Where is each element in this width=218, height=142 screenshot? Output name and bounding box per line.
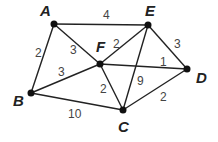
edge-a-e bbox=[54, 24, 148, 25]
edge-weight-b-c: 10 bbox=[68, 107, 82, 121]
edge-weight-f-c: 2 bbox=[100, 82, 107, 96]
node-label-e: E bbox=[145, 2, 156, 19]
node-label-f: F bbox=[96, 38, 106, 55]
node-a-dot bbox=[51, 21, 58, 28]
edge-weight-a-b: 2 bbox=[35, 46, 42, 60]
edge-weight-e-c: 9 bbox=[137, 74, 144, 88]
node-label-b: B bbox=[13, 92, 24, 109]
edge-weight-f-b: 3 bbox=[58, 65, 65, 79]
edge-weight-e-f: 2 bbox=[113, 37, 120, 51]
node-label-d: D bbox=[196, 69, 207, 86]
edge-weight-f-d: 1 bbox=[160, 55, 167, 69]
edge-f-d bbox=[100, 64, 187, 69]
node-d-dot bbox=[184, 66, 191, 73]
edge-f-b bbox=[31, 64, 100, 93]
node-b-dot bbox=[28, 90, 35, 97]
edge-weight-c-d: 2 bbox=[160, 90, 167, 104]
node-e-dot bbox=[145, 22, 152, 29]
edge-e-f bbox=[100, 25, 148, 64]
edge-weight-a-f: 3 bbox=[70, 43, 77, 57]
edge-e-d bbox=[148, 25, 187, 69]
weighted-graph-diagram: 423239132102 AEFDBC bbox=[0, 0, 218, 142]
node-c-dot bbox=[120, 107, 127, 114]
edge-e-c bbox=[123, 25, 148, 110]
node-f-dot bbox=[97, 61, 104, 68]
edge-a-f bbox=[54, 24, 100, 64]
node-label-c: C bbox=[118, 118, 130, 135]
edge-weight-a-e: 4 bbox=[103, 8, 110, 22]
edge-weight-e-d: 3 bbox=[174, 37, 181, 51]
node-label-a: A bbox=[39, 2, 51, 19]
